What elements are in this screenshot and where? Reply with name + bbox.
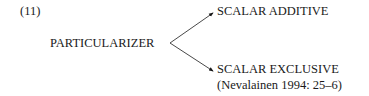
- arrow-to-scalar-additive: [170, 13, 213, 43]
- arrow-to-scalar-exclusive: [170, 43, 213, 71]
- diagram-arrows: [0, 0, 369, 96]
